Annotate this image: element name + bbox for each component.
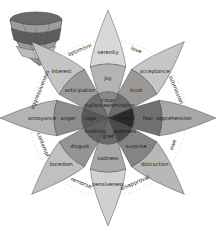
dyad-label-contempt: contempt — [35, 132, 51, 159]
label-rage: rage — [84, 115, 96, 122]
dyad-label-remorse: remorse — [70, 176, 94, 190]
label-serenity: serenity — [98, 49, 119, 56]
emotion-wheel-diagram: ecstasyjoyserenityadmirationtrustaccepta… — [0, 0, 216, 234]
label-sadness: sadness — [97, 155, 118, 161]
dyad-label-love: love — [130, 45, 143, 55]
dyad-label-awe: awe — [168, 138, 178, 151]
label-anticipation: anticipation — [64, 87, 95, 94]
dyad-label-submission: submission — [168, 75, 185, 105]
label-disgust: disgust — [70, 143, 89, 150]
label-trust: trust — [130, 87, 142, 93]
label-distraction: distraction — [141, 161, 169, 167]
label-boredom: boredom — [50, 161, 73, 167]
label-grief: grief — [102, 133, 114, 140]
label-vigilance: vigilance — [84, 102, 107, 109]
label-admiration: admiration — [107, 102, 135, 108]
label-joy: joy — [103, 75, 112, 82]
label-terror: terror — [119, 115, 134, 121]
label-loathing: loathing — [85, 128, 106, 135]
segment-pensiveness — [90, 169, 126, 226]
label-apprehension: apprehension — [156, 115, 191, 122]
label-fear: fear — [143, 115, 154, 121]
dyad-label-optimism: optimism — [67, 42, 93, 58]
label-interest: interest — [51, 68, 71, 74]
label-anger: anger — [60, 115, 76, 122]
label-surprise: surprise — [126, 143, 147, 150]
label-annoyance: annoyance — [28, 115, 57, 122]
segment-serenity — [90, 10, 126, 67]
label-acceptance: acceptance — [140, 68, 170, 75]
